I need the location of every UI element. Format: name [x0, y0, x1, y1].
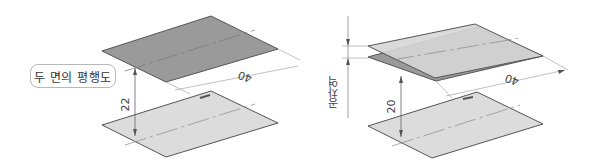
right-height-dimension: 20	[385, 100, 398, 114]
tolerance-zone-label: 공차역	[328, 76, 342, 109]
left-height-dimension: 22	[119, 98, 132, 112]
parallelism-callout: 두 면의 평행도	[30, 64, 116, 88]
right-tolerance-upper-plate	[368, 24, 543, 78]
